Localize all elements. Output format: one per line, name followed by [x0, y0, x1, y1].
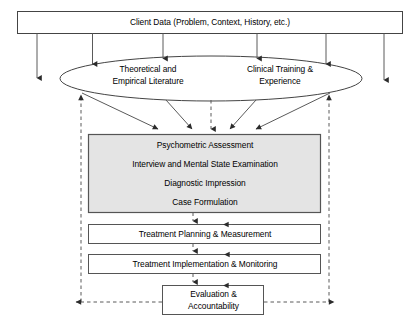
node-shape-assessment [89, 135, 321, 213]
edge-literature-to-assessment-inner [166, 100, 192, 129]
node-shape-treatment-implementation [89, 255, 321, 274]
node-shape-treatment-planning [89, 225, 321, 244]
edge-training-to-assessment-inner [230, 100, 256, 129]
node-shape-evaluation [163, 286, 264, 315]
diagram-canvas [0, 0, 415, 332]
process-diagram: Client Data (Problem, Context, History, … [0, 0, 415, 332]
node-shape-client-data [18, 12, 403, 34]
node-shape-knowledge-ellipse [60, 56, 362, 101]
